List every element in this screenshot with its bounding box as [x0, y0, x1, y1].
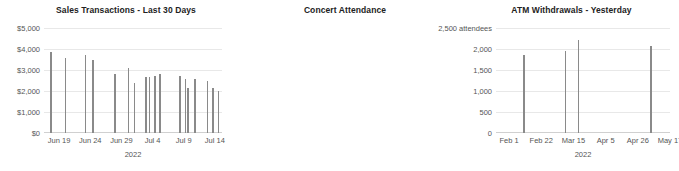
- plot-area: $0$1,000$2,000$3,000$4,000$5,000Jun 19Ju…: [44, 28, 222, 133]
- y-axis-tick-label: $5,000: [17, 24, 40, 33]
- bar: [187, 88, 188, 133]
- bar: [154, 76, 155, 133]
- chart-panel-atm-withdrawals: ATM Withdrawals - Yesterday $0$100$200$3…: [450, 0, 679, 171]
- x-axis-tick-label: Jun 29: [110, 136, 133, 145]
- bar: [185, 79, 186, 133]
- bar: [212, 88, 213, 133]
- bar: [65, 58, 66, 133]
- bar: [92, 60, 93, 133]
- y-axis-tick-label: $1,000: [17, 108, 40, 117]
- bar: [50, 52, 51, 133]
- plot-wrapper: $0$100$200$300$400$500$60012 AM6 AM12 PM…: [450, 0, 679, 171]
- plot-wrapper: 05001,0001,5002,0002,500 attendeesFeb 1F…: [230, 0, 450, 171]
- y-axis-tick-label: $0: [32, 129, 40, 138]
- x-axis-title: 2022: [125, 150, 142, 159]
- bar: [207, 81, 208, 133]
- bar: [159, 74, 160, 133]
- bar: [134, 83, 135, 133]
- y-axis-tick-label: $2,000: [17, 87, 40, 96]
- gridline: [44, 70, 222, 71]
- chart-panel-concert-attendance: Concert Attendance 05001,0001,5002,0002,…: [230, 0, 450, 171]
- charts-dashboard: Sales Transactions - Last 30 Days $0$1,0…: [0, 0, 679, 171]
- gridline: [44, 49, 222, 50]
- x-axis-tick-label: Jul 9: [176, 136, 192, 145]
- bar: [85, 55, 86, 133]
- bar: [179, 76, 180, 133]
- x-axis-tick-label: Jul 4: [145, 136, 161, 145]
- bar: [114, 74, 115, 133]
- x-axis-tick-label: Jul 14: [205, 136, 225, 145]
- x-axis-tick-label: Jun 19: [48, 136, 71, 145]
- bar: [218, 91, 219, 133]
- chart-panel-sales-transactions: Sales Transactions - Last 30 Days $0$1,0…: [0, 0, 230, 171]
- gridline: [44, 28, 222, 29]
- bar: [145, 77, 146, 133]
- y-axis-tick-label: $4,000: [17, 45, 40, 54]
- y-axis-tick-label: $3,000: [17, 66, 40, 75]
- plot-wrapper: $0$1,000$2,000$3,000$4,000$5,000Jun 19Ju…: [0, 0, 230, 171]
- bar: [128, 68, 129, 133]
- bar: [194, 79, 195, 133]
- x-axis-tick-label: Jun 24: [79, 136, 102, 145]
- bar: [149, 77, 150, 133]
